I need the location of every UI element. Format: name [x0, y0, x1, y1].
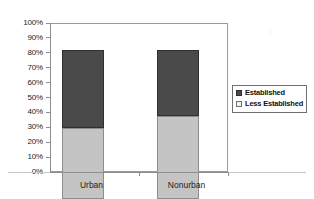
y-tick-mark — [46, 97, 50, 98]
y-tick-label: 80% — [28, 47, 43, 59]
y-tick-label: 70% — [28, 62, 43, 74]
y-tick: 20% — [0, 136, 50, 148]
y-tick-mark — [46, 37, 50, 38]
y-tick: 10% — [0, 151, 50, 163]
bar-segment-established — [62, 50, 104, 128]
bar-segment-established — [157, 50, 199, 116]
chart-legend: Established Less Established — [232, 85, 307, 113]
y-tick-label: 30% — [28, 121, 43, 133]
y-tick-mark — [46, 82, 50, 83]
bar-urban — [62, 50, 104, 199]
y-tick-label: 100% — [23, 17, 43, 29]
y-tick: 30% — [0, 121, 50, 133]
y-axis-line — [50, 23, 51, 173]
y-tick-label: 40% — [28, 106, 43, 118]
x-category-label-nonurban: Nonurban — [139, 178, 234, 192]
y-tick-mark — [46, 127, 50, 128]
y-tick-mark — [46, 67, 50, 68]
y-tick-label: 50% — [28, 92, 43, 104]
y-tick: 60% — [0, 77, 50, 89]
y-tick: 100% — [0, 17, 50, 29]
legend-label-less-established: Less Established — [245, 99, 303, 109]
y-tick-mark — [46, 142, 50, 143]
legend-item-established: Established — [236, 88, 303, 98]
x-tick-mark — [139, 172, 140, 176]
x-category-label-urban: Urban — [44, 178, 139, 192]
y-axis: 100% 90% 80% 70% 60% 50% 40% 30% — [0, 0, 50, 199]
y-tick-mark — [46, 23, 50, 24]
y-tick: 80% — [0, 47, 50, 59]
y-tick: 90% — [0, 32, 50, 44]
y-tick-label: 10% — [28, 151, 43, 163]
legend-swatch-established-icon — [236, 90, 242, 96]
y-tick-mark — [46, 112, 50, 113]
y-tick-label: 60% — [28, 77, 43, 89]
legend-label-established: Established — [245, 88, 285, 98]
x-tick-mark — [228, 172, 229, 176]
y-tick-label: 90% — [28, 32, 43, 44]
y-tick: 70% — [0, 62, 50, 74]
y-tick: 40% — [0, 106, 50, 118]
bar-nonurban — [157, 50, 199, 199]
stacked-bar-chart: 100% 90% 80% 70% 60% 50% 40% 30% — [0, 0, 314, 199]
y-tick-label: 20% — [28, 136, 43, 148]
y-tick: 50% — [0, 92, 50, 104]
y-tick-mark — [46, 157, 50, 158]
legend-swatch-less-established-icon — [236, 101, 242, 107]
legend-item-less-established: Less Established — [236, 99, 303, 109]
x-axis: Urban Nonurban — [50, 178, 228, 194]
y-tick-mark — [46, 52, 50, 53]
